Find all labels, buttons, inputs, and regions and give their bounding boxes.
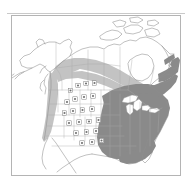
record-point-marker: [96, 118, 100, 122]
record-point-marker: [71, 109, 75, 113]
north-america-map[interactable]: [12, 16, 180, 175]
header-divider: [7, 13, 185, 14]
record-point-marker: [80, 108, 84, 112]
record-point-marker: [92, 81, 96, 85]
record-point-marker: [77, 120, 81, 124]
record-point-marker: [68, 88, 72, 92]
record-point-marker: [62, 111, 66, 115]
record-point-marker: [73, 97, 77, 101]
record-point-marker: [94, 129, 98, 133]
record-point-marker: [90, 107, 94, 111]
map-frame: [11, 15, 181, 176]
page-root: [0, 0, 191, 188]
record-point-marker: [99, 138, 103, 142]
record-point-marker: [87, 119, 91, 123]
record-point-marker: [80, 141, 84, 145]
record-point-marker: [90, 140, 94, 144]
header-mark: [92, 1, 98, 5]
record-point-marker: [84, 130, 88, 134]
record-point-marker: [67, 121, 71, 125]
record-point-marker: [91, 94, 95, 98]
record-point-marker: [76, 83, 80, 87]
record-point-marker: [74, 131, 78, 135]
record-point-marker: [65, 100, 69, 104]
record-point-marker: [82, 95, 86, 99]
record-point-marker: [84, 81, 88, 85]
figure-caption: [11, 178, 181, 186]
